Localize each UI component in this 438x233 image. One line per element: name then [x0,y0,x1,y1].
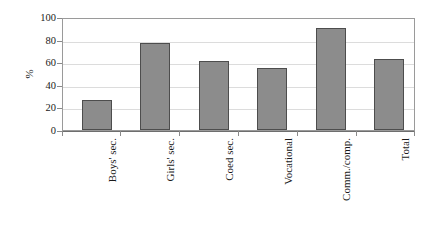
bar-comm-comp [316,28,346,130]
x-tick-label-vocational: Vocational [280,138,296,228]
y-tick-label: 100 [30,13,56,23]
y-tick-label: 20 [30,103,56,113]
x-tick-mark [179,131,180,136]
bar-total [374,59,404,130]
bar-vocational [257,68,287,130]
y-tick-label: 80 [30,36,56,46]
x-tick-label-boys-sec: Boys' sec. [104,138,120,228]
y-tick-label: 40 [30,81,56,91]
plot-area [62,18,415,131]
bar-coed-sec [199,61,229,130]
x-tick-mark [62,131,63,136]
bars-layer [63,19,414,130]
x-tick-mark [238,131,239,136]
x-tick-label-coed-sec: Coed sec. [221,138,237,228]
x-tick-mark [414,131,415,136]
x-tick-label-girls-sec: Girls' sec. [162,138,178,228]
bar-girls-sec [140,43,170,130]
bar-chart-figure: % 100 80 60 40 20 0 [0,0,438,233]
x-axis-tick-labels: Boys' sec. Girls' sec. Coed sec. Vocatio… [62,138,415,228]
x-tick-mark [120,131,121,136]
y-tick-label: 0 [30,126,56,136]
bar-boys-sec [82,100,112,131]
x-tick-mark [297,131,298,136]
x-tick-label-comm-comp: Comm./comp. [338,138,354,228]
y-axis-tick-labels: 100 80 60 40 20 0 [30,18,56,131]
x-tick-mark [356,131,357,136]
x-tick-label-total: Total [397,138,413,228]
y-tick-label: 60 [30,58,56,68]
